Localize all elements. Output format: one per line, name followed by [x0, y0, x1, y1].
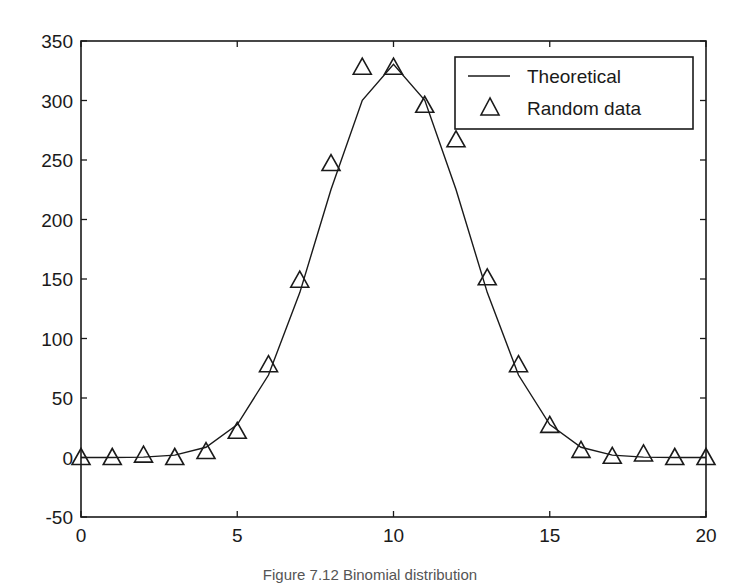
random-data-triangle-marker: [197, 443, 215, 459]
legend-label-random-data: Random data: [527, 98, 642, 119]
x-tick-label: 0: [76, 525, 87, 546]
y-tick-label: 250: [41, 150, 73, 171]
figure-caption: Figure 7.12 Binomial distribution: [0, 566, 740, 583]
y-tick-label: 350: [41, 31, 73, 52]
random-data-triangle-marker: [322, 155, 340, 171]
y-tick-label: 100: [41, 329, 73, 350]
x-tick-label: 5: [232, 525, 243, 546]
random-data-triangle-marker: [166, 449, 184, 465]
random-data-triangle-marker: [635, 445, 653, 461]
random-data-triangle-marker: [666, 449, 684, 465]
random-data-triangle-marker: [416, 96, 434, 112]
legend: Theoretical Random data: [455, 57, 693, 129]
random-data-triangle-marker: [353, 58, 371, 74]
legend-label-theoretical: Theoretical: [527, 66, 621, 87]
y-tick-label: 200: [41, 210, 73, 231]
x-tick-label: 10: [383, 525, 404, 546]
y-tick-label: 0: [62, 448, 73, 469]
y-tick-label: 50: [52, 388, 73, 409]
random-data-triangle-marker: [447, 131, 465, 147]
x-tick-label: 15: [539, 525, 560, 546]
y-tick-label: 300: [41, 91, 73, 112]
y-tick-label: -50: [46, 507, 73, 528]
random-data-triangle-marker: [135, 446, 153, 462]
x-tick-label: 20: [695, 525, 716, 546]
random-data-triangle-marker: [103, 449, 121, 465]
y-tick-label: 150: [41, 269, 73, 290]
